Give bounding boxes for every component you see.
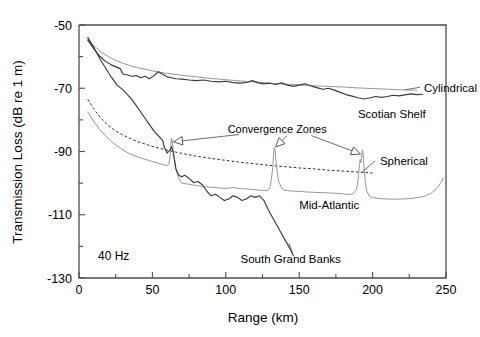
- plot-frame: [79, 25, 446, 278]
- convergence-leader-1: [182, 135, 239, 141]
- x-tick-label: 200: [362, 283, 383, 297]
- frequency-label: 40 Hz: [98, 249, 129, 263]
- series-scotian-shelf: [88, 40, 423, 99]
- y-tick-label: -90: [54, 145, 72, 159]
- figure-container: 050100150200250-130-110-90-70-50 Cylindr…: [0, 0, 480, 337]
- series-label-spherical: Spherical: [380, 155, 428, 167]
- axis-ticks: [79, 25, 446, 278]
- series-label-mid-atlantic: Mid-Atlantic: [299, 199, 359, 211]
- series-spherical: [88, 99, 373, 173]
- x-tick-label: 0: [76, 283, 83, 297]
- x-tick-label: 50: [145, 283, 159, 297]
- plot-frame-box: [79, 25, 446, 278]
- x-axis-title: Range (km): [228, 310, 299, 325]
- y-tick-label: -130: [47, 272, 72, 286]
- series-label-scotian-shelf: Scotian Shelf: [358, 108, 427, 120]
- series-cylindrical: [88, 39, 417, 90]
- convergence-leader-3: [311, 136, 352, 151]
- y-tick-label: -50: [54, 19, 72, 33]
- convergence-arrowhead-1: [174, 137, 183, 145]
- convergence-zones-label: Convergence Zones: [228, 123, 328, 135]
- series-label-south-grand-banks: South Grand Banks: [240, 253, 341, 265]
- cylindrical-leader: [405, 87, 420, 90]
- x-tick-label: 100: [215, 283, 236, 297]
- series-label-cylindrical: Cylindrical: [424, 82, 477, 94]
- transmission-loss-chart: 050100150200250-130-110-90-70-50 Cylindr…: [0, 0, 480, 337]
- y-axis-title: Transmission Loss (dB re 1 m): [10, 60, 25, 243]
- data-curves: CylindricalScotian ShelfSphericalMid-Atl…: [88, 38, 477, 265]
- y-tick-label: -70: [54, 82, 72, 96]
- convergence-arrowhead-3: [351, 147, 361, 155]
- y-tick-label: -110: [48, 208, 72, 222]
- x-tick-label: 250: [436, 283, 457, 297]
- convergence-leader-2: [282, 136, 287, 141]
- x-tick-label: 150: [289, 283, 310, 297]
